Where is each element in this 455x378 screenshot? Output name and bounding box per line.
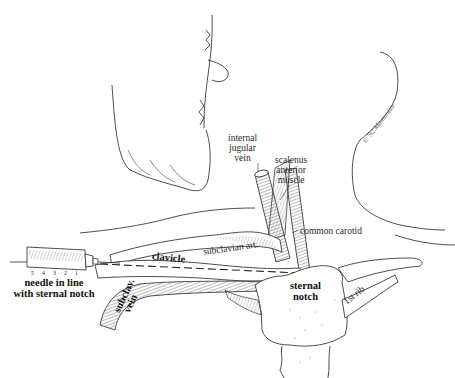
label-common-carotid: common carotid bbox=[300, 226, 362, 236]
right-clavicle-and-rib bbox=[338, 258, 422, 318]
label-internal-jugular-vein: internal jugular vein bbox=[228, 133, 257, 163]
label-sternal-notch: sternal notch bbox=[290, 280, 321, 302]
ear-outline bbox=[199, 15, 228, 128]
jaw-outline bbox=[112, 85, 210, 191]
anatomy-drawing bbox=[0, 0, 455, 378]
label-scalenus-anterior-muscle: scalenus anterior muscle bbox=[275, 155, 307, 185]
label-needle-instruction: needle in line with sternal notch bbox=[13, 277, 95, 299]
illustration-canvas: 5 4 3 2 1 internal jugular vein scalenus… bbox=[0, 0, 455, 378]
left-first-rib bbox=[225, 290, 262, 315]
